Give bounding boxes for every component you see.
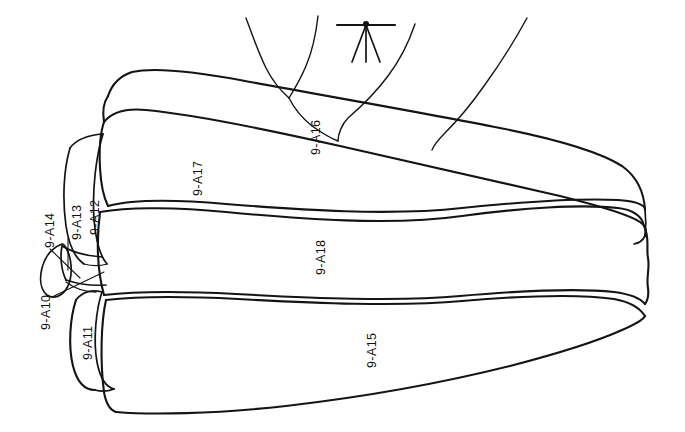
segment-9-A17-right-join xyxy=(634,236,645,244)
label-9-A15: 9-A15 xyxy=(366,333,379,368)
segment-9-A14 xyxy=(41,244,72,297)
segment-9-A12-top-cap xyxy=(70,134,103,148)
segment-9-A12-bottom-cap xyxy=(84,264,107,266)
label-9-A13: 9-A13 xyxy=(71,205,84,240)
segment-9-A11-top-cap xyxy=(76,291,102,300)
figure-root: 9-A10 9-A11 9-A12 9-A13 9-A14 9-A15 9-A1… xyxy=(0,0,685,432)
upper-appendage-group xyxy=(246,16,527,150)
segment-9-A18 xyxy=(98,206,649,304)
segment-9-A17 xyxy=(100,122,645,244)
tripod-arrow-marker xyxy=(337,21,395,62)
segment-9-A18-upper-edge xyxy=(100,206,644,226)
appendage-branch-right-inner xyxy=(338,24,415,141)
leader-9-A14 xyxy=(50,249,80,278)
line-drawing-svg xyxy=(0,0,685,432)
segment-9-A15-left-cap xyxy=(102,300,116,412)
label-9-A18: 9-A18 xyxy=(315,240,328,275)
appendage-branch-left-inner xyxy=(289,16,318,98)
label-9-A10: 9-A10 xyxy=(40,295,53,330)
label-9-A12: 9-A12 xyxy=(89,200,102,235)
label-9-A11: 9-A11 xyxy=(82,326,95,360)
segment-9-A14-outline xyxy=(41,244,72,297)
label-9-A17: 9-A17 xyxy=(192,161,205,196)
segment-9-A16-lower-edge xyxy=(104,110,646,237)
marker-leg-right xyxy=(366,25,380,62)
segment-9-A15-lower-edge xyxy=(116,316,645,414)
marker-leg-left xyxy=(352,25,366,62)
label-9-A14: 9-A14 xyxy=(44,213,57,248)
label-9-A16: 9-A16 xyxy=(310,120,323,155)
marker-apex-dot xyxy=(363,21,369,27)
